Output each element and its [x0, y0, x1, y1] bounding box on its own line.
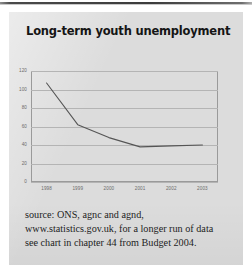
y-tick-0: 0 [9, 179, 27, 184]
x-tick-1998: 1998 [35, 186, 59, 191]
caption-line-3: see chart in chapter 44 from Budget 2004… [25, 236, 237, 250]
series-line [31, 71, 218, 182]
y-tick-20: 20 [9, 161, 27, 166]
x-tick-2002: 2002 [159, 186, 183, 191]
y-tick-40: 40 [9, 142, 27, 147]
caption-line-2: www.statistics.gov.uk, for a longer run … [25, 222, 237, 236]
source-caption: source: ONS, agnc and agnd,www.statistic… [25, 208, 237, 251]
x-tick-2001: 2001 [128, 186, 152, 191]
x-tick-2000: 2000 [97, 186, 121, 191]
figure-panel: Long-term youth unemployment 02040608010… [9, 12, 243, 265]
y-tick-100: 100 [9, 87, 27, 92]
x-tick-1999: 1999 [66, 186, 90, 191]
y-tick-120: 120 [9, 68, 27, 73]
caption-line-1: source: ONS, agnc and agnd, [25, 208, 237, 222]
page-top-rule-shadow [0, 4, 252, 5]
x-tick-2003: 2003 [190, 186, 214, 191]
y-tick-80: 80 [9, 105, 27, 110]
y-tick-60: 60 [9, 124, 27, 129]
gridline [31, 182, 218, 183]
